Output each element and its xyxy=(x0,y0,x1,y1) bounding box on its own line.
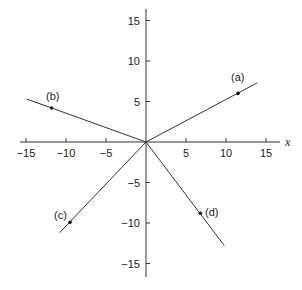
y-tick-label: 10 xyxy=(128,55,140,67)
y-tick-label: 5 xyxy=(134,96,140,108)
y-tick-label: 15 xyxy=(128,15,140,27)
line-a: (a) xyxy=(146,71,257,142)
point-b-label: (b) xyxy=(46,90,59,102)
coordinate-plane: x −15−10−551015 15105−5−10−15 (a) (b) (c… xyxy=(0,0,302,290)
x-axis-label: x xyxy=(284,135,291,149)
x-tick-label: 10 xyxy=(220,147,232,159)
point-c xyxy=(68,220,72,224)
y-tick-label: −10 xyxy=(121,217,140,229)
point-b xyxy=(50,106,54,110)
y-tick-label: −5 xyxy=(127,177,140,189)
x-tick-label: −5 xyxy=(100,147,113,159)
x-tick-label: 5 xyxy=(183,147,189,159)
point-a-label: (a) xyxy=(231,71,244,83)
y-tick-label: −15 xyxy=(121,258,140,270)
point-c-label: (c) xyxy=(54,209,67,221)
x-tick-label: −15 xyxy=(17,147,36,159)
x-tick-label: −10 xyxy=(57,147,76,159)
point-a xyxy=(236,92,240,96)
point-d-label: (d) xyxy=(205,206,218,218)
line-b: (b) xyxy=(27,90,146,142)
x-tick-label: 15 xyxy=(260,147,272,159)
point-d xyxy=(199,211,203,215)
